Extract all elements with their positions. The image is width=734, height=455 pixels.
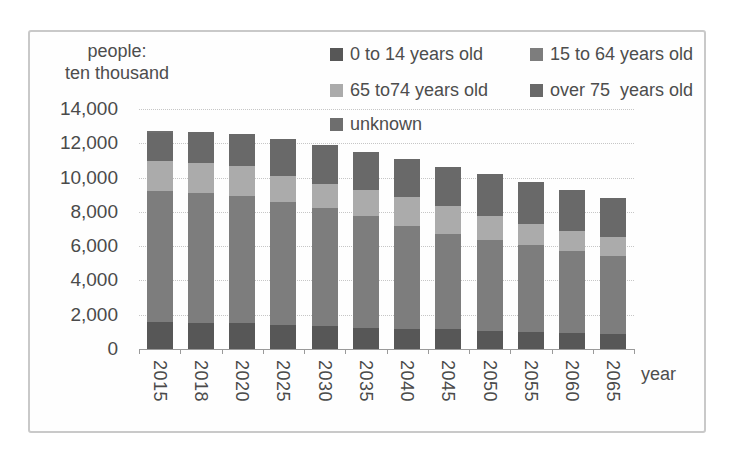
y-tick-label: 4,000: [30, 269, 118, 290]
bar-segment-0-to-14-years-old: [312, 326, 338, 349]
bar-segment-0-to-14-years-old: [270, 325, 296, 349]
x-tick-label: 2060: [563, 360, 581, 402]
bar-segment-65-to74-years-old: [229, 166, 255, 196]
bar-segment-over-75-years-old: [559, 190, 585, 231]
x-tick-label: 2055: [522, 360, 540, 402]
y-axis-title-line2: ten thousand: [58, 62, 176, 84]
bar-2050: [477, 174, 503, 349]
legend-swatch-icon: [330, 84, 343, 97]
x-tick-label: 2015: [151, 360, 169, 402]
legend-label: 65 to74 years old: [350, 80, 488, 100]
bar-segment-65-to74-years-old: [312, 184, 338, 209]
x-axis-tick: [428, 349, 429, 354]
bar-segment-65-to74-years-old: [394, 197, 420, 226]
bar-segment-15-to-64-years-old: [518, 245, 544, 331]
bar-segment-0-to-14-years-old: [600, 334, 626, 349]
bar-2030: [312, 145, 338, 349]
bar-segment-over-75-years-old: [312, 145, 338, 184]
x-tick-label: 2020: [233, 360, 251, 402]
bar-segment-65-to74-years-old: [518, 224, 544, 246]
bar-segment-65-to74-years-old: [435, 206, 461, 234]
bar-segment-65-to74-years-old: [559, 231, 585, 251]
x-tick-label: 2045: [439, 360, 457, 402]
bar-segment-over-75-years-old: [353, 152, 379, 191]
x-axis-tick: [304, 349, 305, 354]
bar-2055: [518, 182, 544, 349]
legend-label: over 75 years old: [550, 80, 693, 100]
bar-segment-15-to-64-years-old: [435, 234, 461, 330]
bar-segment-0-to-14-years-old: [559, 333, 585, 349]
bar-segment-15-to-64-years-old: [559, 251, 585, 333]
legend-item-unknown: unknown: [330, 114, 422, 134]
bar-segment-0-to-14-years-old: [229, 323, 255, 349]
bar-segment-65-to74-years-old: [600, 237, 626, 256]
legend-swatch-icon: [530, 84, 543, 97]
x-tick-label: 2050: [481, 360, 499, 402]
gridline: [139, 109, 634, 110]
bar-segment-0-to-14-years-old: [188, 323, 214, 349]
y-tick-label: 0: [30, 338, 118, 359]
bar-segment-over-75-years-old: [518, 182, 544, 224]
x-axis-tick: [469, 349, 470, 354]
x-axis-tick: [180, 349, 181, 354]
chart-frame: people: ten thousand year 20152018202020…: [28, 30, 706, 433]
x-tick-label: 2040: [398, 360, 416, 402]
x-axis-tick: [222, 349, 223, 354]
x-tick-label: 2035: [357, 360, 375, 402]
x-axis-tick: [552, 349, 553, 354]
bar-segment-over-75-years-old: [600, 198, 626, 237]
bar-segment-15-to-64-years-old: [477, 240, 503, 331]
bar-segment-15-to-64-years-old: [270, 202, 296, 325]
bar-segment-over-75-years-old: [147, 133, 173, 161]
legend-swatch-icon: [530, 48, 543, 61]
bar-segment-over-75-years-old: [270, 139, 296, 176]
bar-segment-over-75-years-old: [229, 134, 255, 166]
y-tick-label: 6,000: [30, 235, 118, 256]
bar-2018: [188, 132, 214, 349]
bar-2045: [435, 167, 461, 349]
bar-segment-15-to-64-years-old: [229, 196, 255, 323]
legend-item-0-to-14-years-old: 0 to 14 years old: [330, 44, 483, 64]
bar-segment-15-to-64-years-old: [312, 208, 338, 326]
bar-2020: [229, 134, 255, 349]
y-tick-label: 12,000: [30, 132, 118, 153]
bar-segment-0-to-14-years-old: [353, 328, 379, 349]
legend-label: 0 to 14 years old: [350, 44, 483, 64]
bar-segment-over-75-years-old: [435, 167, 461, 206]
bar-segment-65-to74-years-old: [188, 163, 214, 193]
bar-segment-15-to-64-years-old: [147, 191, 173, 322]
bar-segment-65-to74-years-old: [477, 216, 503, 240]
bar-2025: [270, 139, 296, 349]
y-tick-label: 14,000: [30, 98, 118, 119]
x-axis-tick: [510, 349, 511, 354]
bar-segment-65-to74-years-old: [270, 176, 296, 202]
y-tick-label: 2,000: [30, 304, 118, 325]
bar-segment-0-to-14-years-old: [147, 322, 173, 349]
bar-2060: [559, 190, 585, 349]
bar-segment-0-to-14-years-old: [518, 332, 544, 349]
y-tick-label: 8,000: [30, 201, 118, 222]
bar-segment-65-to74-years-old: [147, 161, 173, 191]
x-tick-label: 2030: [316, 360, 334, 402]
x-tick-label: 2025: [274, 360, 292, 402]
legend-swatch-icon: [330, 48, 343, 61]
x-tick-label: 2065: [604, 360, 622, 402]
bar-2035: [353, 152, 379, 349]
bar-segment-over-75-years-old: [477, 174, 503, 215]
y-axis-title: people: ten thousand: [58, 40, 176, 84]
bar-segment-over-75-years-old: [188, 132, 214, 163]
x-tick-label: 2018: [192, 360, 210, 402]
bar-2065: [600, 198, 626, 349]
bar-segment-15-to-64-years-old: [188, 193, 214, 322]
x-axis-tick: [593, 349, 594, 354]
y-axis-title-line1: people:: [58, 40, 176, 62]
legend-swatch-icon: [330, 118, 343, 131]
bar-segment-65-to74-years-old: [353, 190, 379, 216]
bar-2015: [147, 131, 173, 349]
plot-area: [139, 109, 634, 350]
x-axis-tick: [345, 349, 346, 354]
bar-segment-0-to-14-years-old: [394, 329, 420, 349]
bar-segment-0-to-14-years-old: [435, 329, 461, 349]
legend-label: 15 to 64 years old: [550, 44, 693, 64]
bar-segment-over-75-years-old: [394, 159, 420, 197]
